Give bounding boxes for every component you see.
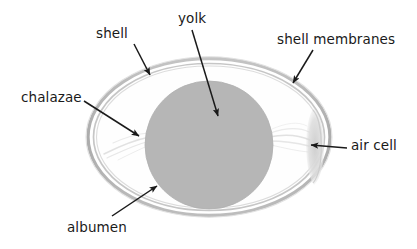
label-chalazae: chalazae: [21, 91, 82, 105]
label-air-cell: air cell: [351, 139, 397, 153]
label-albumen: albumen: [67, 221, 127, 235]
label-yolk: yolk: [178, 12, 206, 26]
egg-anatomy-diagram: shell yolk shell membranes chalazae air …: [0, 0, 417, 249]
label-shell: shell: [96, 27, 128, 41]
label-shell-membranes: shell membranes: [277, 33, 395, 47]
arrow-shell-membranes: [293, 50, 313, 83]
yolk-region: [145, 81, 273, 209]
